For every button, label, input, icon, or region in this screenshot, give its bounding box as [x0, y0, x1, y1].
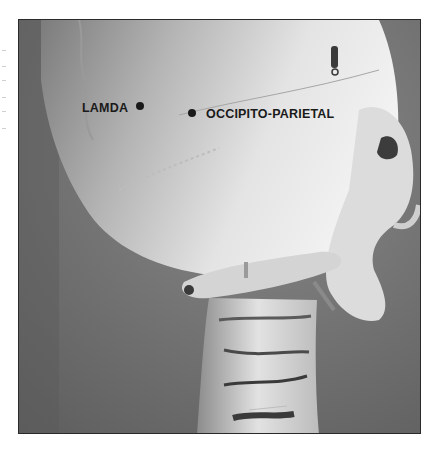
occipito-parietal-label: OCCIPITO-PARIETAL — [206, 107, 334, 121]
margin-mark — [2, 66, 6, 67]
occipito-parietal-marker — [188, 109, 196, 117]
margin-mark — [2, 97, 6, 98]
margin-mark — [2, 111, 6, 112]
margin-mark — [2, 128, 6, 129]
photo-frame: LAMDA OCCIPITO-PARIETAL — [18, 19, 421, 434]
margin-mark — [2, 80, 6, 81]
skull-photo — [19, 20, 421, 434]
lamda-marker — [136, 102, 144, 110]
lamda-label: LAMDA — [82, 101, 128, 115]
margin-mark — [2, 50, 6, 51]
